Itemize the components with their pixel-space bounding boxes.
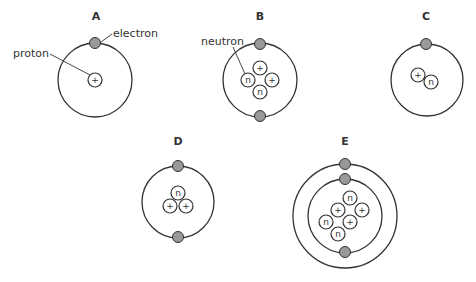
electron [255,111,266,122]
electron [340,159,351,170]
proton: + [265,73,279,87]
neutron: n [343,191,357,205]
proton-symbol: + [268,75,276,85]
atom-title: E [341,135,349,148]
proton-symbol: + [414,70,422,80]
proton-symbol: + [256,63,264,73]
proton: + [343,215,357,229]
neutron-symbol: n [347,193,353,203]
orbit-ring [223,43,297,117]
electron [255,39,266,50]
proton: + [331,203,345,217]
proton-label: proton [13,47,49,60]
neutron-leader-line [233,47,245,74]
neutron-symbol: n [428,77,434,87]
atom-title: D [173,135,182,148]
proton: + [163,199,177,213]
proton-symbol: + [91,75,99,85]
neutron: n [424,75,438,89]
proton-symbol: + [166,201,174,211]
proton-symbol: + [334,205,342,215]
electron [340,174,351,185]
atom-d: Dn++ [142,135,214,243]
electron [173,232,184,243]
proton-symbol: + [182,201,190,211]
proton-symbol: + [346,217,354,227]
atom-e: En++n+n [293,135,397,268]
proton: + [253,61,267,75]
orbit-ring [142,166,214,238]
neutron-symbol: n [323,217,329,227]
proton: + [179,199,193,213]
neutron-symbol: n [175,188,181,198]
electron [421,39,432,50]
neutron: n [331,227,345,241]
atoms-layer: A+B+n+nC+nDn++En++n+n [58,10,463,268]
neutron-symbol: n [335,229,341,239]
proton-symbol: + [358,205,366,215]
neutron-label: neutron [201,35,244,48]
neutron: n [253,85,267,99]
atom-c: C+n [391,10,463,116]
electron [90,38,101,49]
neutron: n [241,73,255,87]
atom-b: B+n+n [223,10,297,122]
electron-label: electron [113,27,158,40]
atom-diagram: electron proton neutron A+B+n+nC+nDn++En… [0,0,476,282]
electron [340,247,351,258]
proton-leader-line [50,54,90,75]
atom-title: A [92,10,101,23]
neutron-symbol: n [245,75,251,85]
proton: + [355,203,369,217]
neutron-symbol: n [257,87,263,97]
atom-title: B [256,10,264,23]
electron [173,161,184,172]
neutron: n [171,186,185,200]
neutron: n [319,215,333,229]
electron-leader-line [101,34,112,42]
atom-title: C [422,10,430,23]
proton: + [88,73,102,87]
orbit-ring [308,179,382,253]
proton: + [411,68,425,82]
